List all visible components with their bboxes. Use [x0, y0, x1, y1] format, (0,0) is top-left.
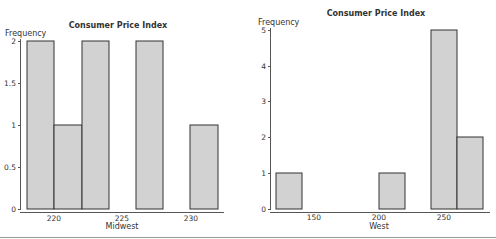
x-tick-label: 250 — [437, 213, 452, 222]
chart-canvas: Consumer Price Index Frequency 2 1.5 1 0… — [0, 0, 496, 239]
y-tick-label: 4 — [261, 62, 266, 71]
y-tick-label: 2 — [11, 37, 16, 46]
bar — [276, 173, 302, 209]
right-bars — [276, 30, 483, 209]
y-tick-label: 3 — [261, 97, 266, 106]
right-histogram: Consumer Price Index Frequency 5 4 3 2 1… — [258, 9, 490, 231]
y-tick-label: 5 — [261, 26, 266, 35]
y-tick-label: 1.5 — [4, 79, 16, 88]
left-bars — [27, 41, 218, 209]
right-x-axis-label: West — [369, 222, 389, 231]
left-histogram: Consumer Price Index Frequency 2 1.5 1 0… — [4, 21, 224, 231]
bar — [82, 41, 109, 209]
left-x-axis-label: Midwest — [106, 222, 139, 231]
bar — [190, 125, 218, 209]
bar — [54, 125, 82, 209]
bar — [457, 137, 483, 209]
y-tick-label: 1 — [11, 121, 16, 130]
left-chart-title: Consumer Price Index — [69, 21, 168, 30]
y-tick-label: 2 — [261, 133, 266, 142]
y-tick-label: 1 — [261, 169, 266, 178]
x-tick-label: 230 — [184, 214, 199, 223]
y-tick-label: 0 — [261, 205, 266, 214]
right-chart-title: Consumer Price Index — [327, 9, 426, 18]
y-tick-label: 0.5 — [4, 163, 16, 172]
bar — [27, 41, 54, 209]
bar — [379, 173, 405, 209]
x-tick-label: 200 — [372, 213, 387, 222]
x-tick-label: 150 — [307, 213, 322, 222]
x-tick-label: 220 — [47, 214, 62, 223]
y-tick-label: 0 — [11, 205, 16, 214]
bar — [431, 30, 457, 209]
bar — [136, 41, 163, 209]
